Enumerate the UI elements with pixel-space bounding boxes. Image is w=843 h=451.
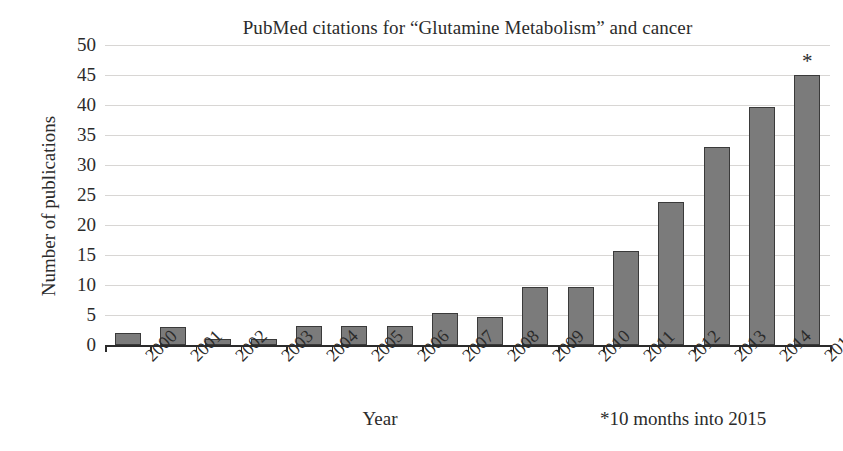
bar <box>658 202 684 345</box>
x-tick-label: 2002 <box>232 352 245 365</box>
y-tick-label: 5 <box>50 305 96 324</box>
footnote: *10 months into 2015 <box>600 408 830 430</box>
bar <box>749 107 775 345</box>
x-tick-label: 2013 <box>731 352 744 365</box>
bar-series <box>105 45 830 345</box>
x-tick-label: 2007 <box>459 352 472 365</box>
y-tick-label: 35 <box>50 125 96 144</box>
x-tick-mark <box>105 345 107 352</box>
y-tick-label: 25 <box>50 185 96 204</box>
x-tick-label: 2003 <box>278 352 291 365</box>
y-tick-label: 0 <box>50 335 96 354</box>
x-tick-label: 2006 <box>414 352 427 365</box>
x-tick-label: 2012 <box>685 352 698 365</box>
bar <box>704 147 730 345</box>
y-tick-label: 30 <box>50 155 96 174</box>
plot-area <box>105 45 830 345</box>
x-tick-label: 2011 <box>640 352 653 365</box>
x-tick-label: 2008 <box>504 352 517 365</box>
x-tick-label: 2015 <box>821 352 834 365</box>
x-tick-label: 2014 <box>776 352 789 365</box>
x-tick-label: 2004 <box>323 352 336 365</box>
asterisk-marker: * <box>797 53 817 69</box>
chart-figure: PubMed citations for “Glutamine Metaboli… <box>0 0 843 451</box>
y-tick-label: 40 <box>50 95 96 114</box>
x-axis-title: Year <box>300 408 460 430</box>
y-tick-label: 50 <box>50 35 96 54</box>
y-tick-label: 20 <box>50 215 96 234</box>
bar <box>794 75 820 345</box>
bar <box>115 333 141 345</box>
x-tick-label: 2001 <box>187 352 200 365</box>
y-tick-label: 45 <box>50 65 96 84</box>
x-tick-label: 2005 <box>368 352 381 365</box>
x-tick-label: 2000 <box>142 352 155 365</box>
x-tick-label: 2009 <box>549 352 562 365</box>
chart-title: PubMed citations for “Glutamine Metaboli… <box>105 16 830 40</box>
y-tick-label: 15 <box>50 245 96 264</box>
y-tick-label: 10 <box>50 275 96 294</box>
x-axis-tick-labels: 2000200120022003200420052006200720082009… <box>105 352 830 402</box>
x-tick-label: 2010 <box>595 352 608 365</box>
y-axis-tick-labels: 05101520253035404550 <box>48 45 96 345</box>
